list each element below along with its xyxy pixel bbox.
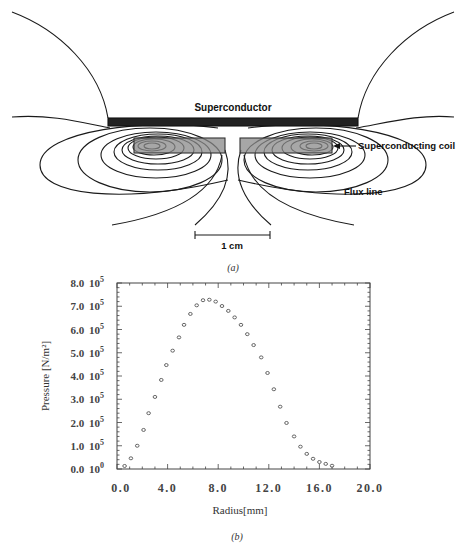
figure-a-caption: (a) bbox=[227, 262, 239, 274]
figure-b-caption: (b) bbox=[231, 531, 243, 543]
x-tick-label: 12.0 bbox=[255, 481, 282, 495]
data-point bbox=[142, 428, 146, 431]
data-point bbox=[299, 445, 303, 448]
data-point bbox=[153, 395, 157, 398]
data-point bbox=[239, 323, 243, 326]
side-flux-right bbox=[356, 116, 454, 128]
outer-flux-arc-right bbox=[358, 12, 454, 118]
data-point bbox=[123, 464, 127, 467]
x-tick-label: 16.0 bbox=[306, 481, 333, 495]
data-point bbox=[245, 333, 249, 336]
data-point bbox=[147, 412, 151, 415]
y-axis-label: Pressure [N/m²] bbox=[39, 341, 51, 411]
data-point bbox=[318, 461, 322, 464]
data-point bbox=[278, 405, 282, 408]
data-point bbox=[165, 364, 169, 367]
x-tick-label: 0.0 bbox=[111, 481, 131, 495]
outer-flux-arc-left bbox=[12, 12, 108, 118]
y-tick-label: 7.0 105 bbox=[71, 298, 105, 312]
data-point bbox=[252, 344, 256, 347]
y-tick-label: 3.0 105 bbox=[71, 391, 105, 405]
data-point bbox=[292, 435, 296, 438]
data-point bbox=[220, 305, 224, 308]
data-points bbox=[123, 298, 334, 467]
x-axis-label: Radius[mm] bbox=[213, 504, 268, 516]
data-point bbox=[214, 300, 218, 303]
data-point bbox=[324, 462, 328, 465]
data-point bbox=[311, 457, 315, 460]
data-point bbox=[285, 421, 289, 424]
x-tick-labels: 0.04.08.012.016.020.0 bbox=[111, 481, 383, 495]
data-point bbox=[177, 336, 181, 339]
data-point bbox=[259, 356, 263, 359]
y-tick-label: 8.0 105 bbox=[71, 275, 105, 289]
data-point bbox=[201, 299, 205, 302]
data-point bbox=[266, 371, 270, 374]
plot-frame bbox=[117, 283, 370, 469]
x-tick-label: 4.0 bbox=[158, 481, 178, 495]
flux-line-label: Flux line bbox=[344, 186, 383, 197]
axis-ticks bbox=[117, 283, 370, 469]
y-tick-label: 5.0 105 bbox=[71, 345, 105, 359]
data-point bbox=[135, 444, 139, 447]
data-point bbox=[208, 298, 212, 301]
data-point bbox=[171, 349, 175, 352]
coil-label: Superconducting coil bbox=[358, 140, 455, 151]
data-point bbox=[159, 378, 163, 381]
figure: Superconductor Superconducting coil Flux… bbox=[0, 0, 466, 552]
scale-bar bbox=[195, 231, 270, 239]
y-tick-label: 4.0 105 bbox=[71, 368, 105, 382]
scale-bar-label: 1 cm bbox=[221, 240, 243, 251]
coil-left bbox=[134, 138, 225, 153]
x-tick-label: 20.0 bbox=[357, 481, 384, 495]
figure-a-diagram bbox=[12, 12, 454, 239]
side-flux-left bbox=[12, 116, 110, 128]
data-point bbox=[272, 388, 276, 391]
x-tick-label: 8.0 bbox=[208, 481, 228, 495]
y-tick-label: 2.0 105 bbox=[71, 415, 105, 429]
y-tick-label: 0.0 100 bbox=[71, 461, 105, 475]
data-point bbox=[305, 452, 309, 455]
data-point bbox=[189, 312, 193, 315]
y-tick-label: 6.0 105 bbox=[71, 322, 105, 336]
y-tick-labels: 0.0 1001.0 1052.0 1053.0 1054.0 1055.0 1… bbox=[71, 275, 105, 475]
pressure-chart: 0.0 1001.0 1052.0 1053.0 1054.0 1055.0 1… bbox=[71, 275, 384, 495]
data-point bbox=[330, 464, 334, 467]
data-point bbox=[227, 309, 231, 312]
data-point bbox=[182, 323, 186, 326]
superconductor-bar bbox=[108, 118, 358, 126]
data-point bbox=[233, 316, 237, 319]
coil-right bbox=[240, 138, 332, 153]
superconductor-label: Superconductor bbox=[194, 102, 271, 113]
data-point bbox=[129, 457, 133, 460]
data-point bbox=[195, 304, 199, 307]
y-tick-label: 1.0 105 bbox=[71, 438, 105, 452]
